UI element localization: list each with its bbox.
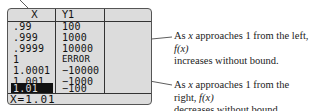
annotation-left-limit: As x approaches 1 from the left, f(x) in… <box>174 30 314 68</box>
table-cell-x[interactable]: .99 <box>13 21 32 32</box>
annotation-text: approaches 1 from the left, <box>193 30 308 41</box>
table-cell-y[interactable]: −10000 <box>62 65 99 76</box>
column-header-y1: Y1 <box>62 9 74 21</box>
table-cell-y[interactable]: ERROR <box>62 54 90 65</box>
annotation-text: As <box>174 30 188 41</box>
table-cell-x[interactable]: .9999 <box>13 43 44 54</box>
table-cell-y[interactable]: 10000 <box>62 43 93 54</box>
table-cell-x[interactable]: 1.0001 <box>13 65 50 76</box>
annotation-fn: f(x) <box>199 92 214 103</box>
table-cell-x[interactable]: .999 <box>13 32 38 43</box>
column-divider <box>55 9 56 93</box>
column-divider <box>104 9 105 93</box>
table-cell-x[interactable]: 1 <box>13 54 19 65</box>
annotation-fn: f(x) <box>174 43 189 54</box>
calculator-table-screen: X Y1 .99 100 .999 1000 .9999 10000 1 ERR… <box>7 8 152 105</box>
table-cell-y[interactable]: 1000 <box>62 32 87 43</box>
status-text: X=1.01 <box>10 94 56 106</box>
table-cell-y[interactable]: 100 <box>62 21 81 32</box>
annotation-text: increases without bound. <box>174 55 279 66</box>
annotation-right-limit: As x approaches 1 from the right, f(x) d… <box>174 79 314 111</box>
annotation-text: decreases without bound. <box>174 104 280 111</box>
annotation-text: As <box>174 79 188 90</box>
column-header-x: X <box>31 9 38 21</box>
status-line: X=1.01 <box>8 93 151 106</box>
